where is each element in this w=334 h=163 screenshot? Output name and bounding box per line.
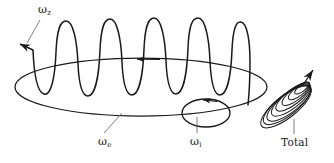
total-spiral-group [255,70,317,135]
omega-spin-subscript: i [199,141,202,149]
label-total: Total [281,137,308,148]
leader-lines [27,20,294,134]
spin-circle-group [182,99,230,127]
omega-precession-symbol: ω [98,135,107,148]
label-omega-precession: ωe [98,136,111,149]
label-omega-spin: ωi [190,136,202,149]
helix-group [20,18,250,105]
helix-start-arrow-icon [20,44,33,50]
precession-ellipse-group [15,58,267,116]
label-omega-z: ωz [38,4,51,17]
omega-z-symbol: ω [38,3,47,16]
small-ellipse [182,99,230,127]
omega-z-subscript: z [47,9,51,17]
leader-omega-z [27,20,40,43]
helix-coil [33,18,250,105]
total-loop [255,79,317,134]
figure-container: ωz ωe ωi Total [0,0,334,163]
leader-omega-precession [104,113,122,133]
omega-spin-symbol: ω [190,135,199,148]
large-ellipse [15,58,267,116]
omega-precession-subscript: e [107,141,111,149]
